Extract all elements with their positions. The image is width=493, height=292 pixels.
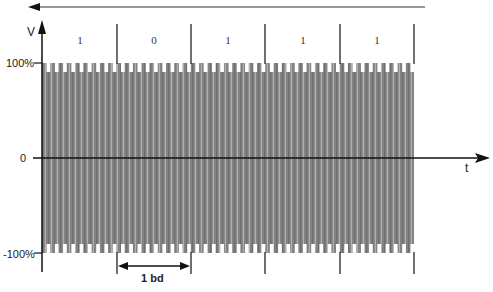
baud-dimension-arrow (118, 262, 190, 270)
bit-label: 1 (218, 34, 238, 46)
bit-label: 1 (367, 34, 387, 46)
bit-label: 1 (293, 34, 313, 46)
baud-label: 1 bd (141, 273, 164, 284)
y-tick-100: 100% (6, 58, 34, 69)
waveform-bottom-edge (42, 243, 410, 253)
y-axis-label: V (27, 26, 35, 38)
bit-label: 0 (144, 34, 164, 46)
bit-label: 1 (70, 34, 90, 46)
y-tick-0: 0 (20, 153, 26, 164)
x-axis-label: t (465, 162, 468, 174)
y-tick-minus-100: -100% (3, 249, 35, 260)
direction-arrow (28, 3, 425, 11)
waveform-top-edge (42, 63, 410, 73)
